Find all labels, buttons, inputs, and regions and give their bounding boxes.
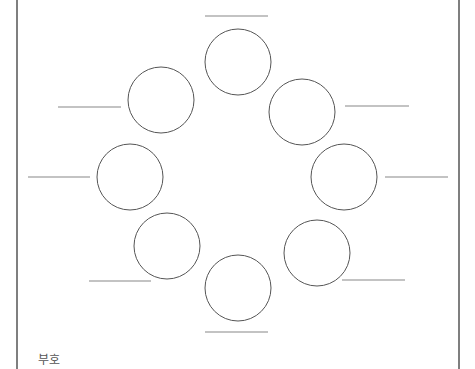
circle-left bbox=[97, 144, 163, 210]
circle-right bbox=[311, 144, 377, 210]
circle-lower-left bbox=[134, 213, 200, 279]
circle-upper-left bbox=[128, 67, 194, 133]
circle-upper-right bbox=[269, 79, 335, 145]
circle-top bbox=[205, 29, 271, 95]
circle-lower-right bbox=[284, 220, 350, 286]
legend-caption: 부호 bbox=[38, 350, 60, 367]
circle-bottom bbox=[205, 255, 271, 321]
circle-ring-diagram bbox=[0, 0, 475, 369]
node-group bbox=[28, 16, 448, 332]
